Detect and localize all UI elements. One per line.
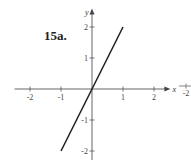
x-axis-arrow xyxy=(164,87,170,92)
x-tick-label: -1 xyxy=(58,93,65,102)
y-tick-label: -2 xyxy=(81,147,88,156)
y-tick-label: 2 xyxy=(84,23,88,32)
y-tick-label: 1 xyxy=(84,54,88,63)
y-axis-label: y xyxy=(84,8,89,17)
x-tick-label: -2 xyxy=(27,93,34,102)
problem-label: 15a. xyxy=(44,28,67,43)
chart: 15a. xy -2-112-2-112 -2 xyxy=(0,0,191,160)
x-axis-label: x xyxy=(171,85,176,94)
y-tick-label: -1 xyxy=(81,116,88,125)
x-tick-label: 1 xyxy=(121,93,125,102)
fragment-tick-label: -2 xyxy=(183,89,190,98)
adjacent-graph-fragment: -2 xyxy=(179,84,191,99)
y-axis-arrow xyxy=(90,9,95,15)
x-tick-label: 2 xyxy=(152,93,156,102)
